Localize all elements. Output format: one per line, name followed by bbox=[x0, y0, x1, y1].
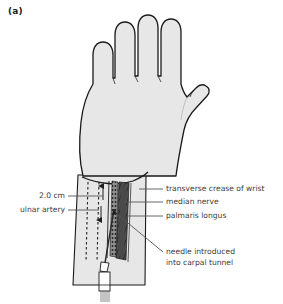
hand-outline bbox=[80, 15, 209, 176]
forearm bbox=[73, 175, 146, 285]
label-transverse-crease-of-wrist: transverse crease of wrist bbox=[166, 184, 264, 195]
hand-wrist-illustration bbox=[0, 0, 283, 304]
label-ulnar-artery: ulnar artery bbox=[20, 205, 65, 216]
panel-tag: (a) bbox=[8, 6, 23, 16]
label-palmaris-longus: palmaris longus bbox=[166, 211, 226, 222]
label-needle-line1: needle introduced bbox=[166, 247, 235, 256]
label-distance: 2.0 cm bbox=[39, 191, 65, 202]
label-median-nerve: median nerve bbox=[166, 197, 219, 208]
label-needle-line2: into carpal tunnel bbox=[166, 258, 235, 269]
figure-panel-a: (a) 2.0 cm ulnar artery transverse creas… bbox=[0, 0, 283, 304]
label-needle-introduced: needle introduced into carpal tunnel bbox=[166, 247, 235, 268]
